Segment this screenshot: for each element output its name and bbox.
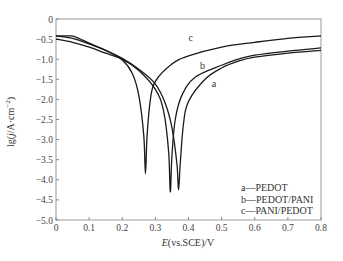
legend-item-b: b—PEDOT/PANI bbox=[241, 194, 313, 206]
x-tick-label: 0.3 bbox=[149, 223, 161, 233]
x-tick-label: 0.6 bbox=[249, 223, 261, 233]
curve-c bbox=[56, 36, 321, 174]
curve-label-a: a bbox=[212, 78, 217, 89]
x-axis-title: E(vs.SCE)/V bbox=[161, 237, 215, 249]
plot-curves bbox=[56, 36, 321, 192]
x-tick-label: 0.2 bbox=[116, 223, 128, 233]
x-tick-label: 0.5 bbox=[216, 223, 228, 233]
y-tick-label: −5.0 bbox=[36, 216, 53, 226]
curve-b bbox=[56, 39, 321, 192]
y-tick-label: −0.5 bbox=[36, 35, 53, 45]
legend-item-a: a—PEDOT bbox=[241, 182, 313, 194]
legend-item-c: c—PANI/PEDOT bbox=[241, 205, 313, 217]
chart-canvas: 00.10.20.30.40.50.60.70.80−0.5−1.0−1.5−2… bbox=[0, 0, 343, 261]
curve-label-c: c bbox=[189, 32, 194, 43]
x-tick-label: 0.4 bbox=[183, 223, 195, 233]
x-tick-label: 0.8 bbox=[315, 223, 327, 233]
y-tick-label: −3.0 bbox=[36, 135, 53, 145]
x-tick-label: 0 bbox=[54, 223, 59, 233]
y-tick-label: −4.0 bbox=[36, 175, 53, 185]
y-tick-label: −2.5 bbox=[36, 115, 53, 125]
y-axis-title: lg(j/A·cm−2) bbox=[4, 97, 17, 147]
x-tick-label: 0.1 bbox=[83, 223, 95, 233]
curve-a bbox=[56, 36, 321, 190]
y-tick-label: −4.5 bbox=[36, 195, 53, 205]
legend: a—PEDOT b—PEDOT/PANI c—PANI/PEDOT bbox=[241, 182, 313, 217]
curve-label-b: b bbox=[200, 60, 205, 71]
x-tick-label: 0.7 bbox=[282, 223, 294, 233]
y-tick-label: −1.0 bbox=[36, 55, 53, 65]
y-tick-label: −3.5 bbox=[36, 155, 53, 165]
y-tick-label: 0 bbox=[48, 15, 53, 25]
y-tick-label: −2.0 bbox=[36, 95, 53, 105]
y-tick-label: −1.5 bbox=[36, 75, 53, 85]
